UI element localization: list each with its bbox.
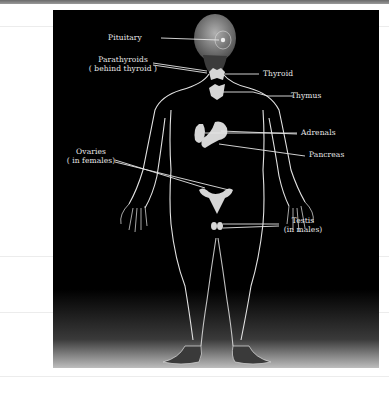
testis-right [217,222,223,230]
endocrine-diagram: Pituitary Parathyroids ( behind thyroid … [53,10,379,368]
pancreas-gland [201,122,227,148]
label-testis-line2: (in males) [279,226,327,235]
label-testis: Testis (in males) [279,217,327,234]
head [194,14,236,72]
label-thyroid: Thyroid [263,70,293,79]
uterus-ovaries [199,188,233,214]
top-bar [0,0,389,4]
feet [163,346,271,364]
label-adrenals: Adrenals [301,129,336,138]
testis-leader-2 [223,226,279,228]
label-thymus: Thymus [291,92,321,101]
label-ovaries: Ovaries ( in females) [63,148,119,165]
testis-left [211,222,217,230]
divider [0,376,389,377]
ovaries-leader-2 [115,162,229,190]
label-parathyroids: Parathyroids ( behind thyroid ) [87,56,159,73]
thymus-gland [209,84,225,100]
label-pituitary: Pituitary [108,34,142,43]
label-ovaries-line2: ( in females) [63,157,119,166]
label-pancreas: Pancreas [309,151,344,160]
pancreas-leader [219,144,305,156]
adrenals-leader-2 [221,131,297,134]
ovaries-leader-1 [115,160,205,188]
thymus-leader [223,92,293,96]
label-parathyroids-line2: ( behind thyroid ) [87,65,159,74]
parathyroids-leader-1 [153,63,207,71]
parathyroids-leader-2 [153,65,207,73]
pituitary-gland [221,38,225,42]
